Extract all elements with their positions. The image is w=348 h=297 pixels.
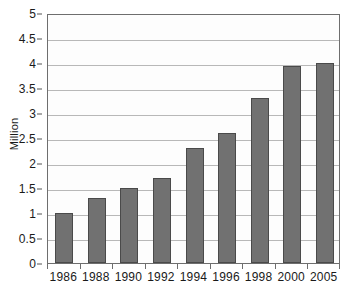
y-tick-mark [37,139,42,140]
bar [283,66,301,264]
x-tick-label: 1988 [82,270,110,284]
bar [218,133,236,263]
x-axis-tick-labels: 198619881990199219941996199820002005 [47,270,340,292]
y-tick-label: 5 [29,7,36,21]
bar-chart: Million 00.511.522.533.544.55 1986198819… [0,0,348,297]
x-tick-label: 1992 [147,270,175,284]
y-tick-mark [37,264,42,265]
x-tick-mark [177,264,178,269]
x-tick-label: 2000 [277,270,305,284]
x-tick-label: 1996 [212,270,240,284]
y-tick-label: 0 [29,257,36,271]
y-tick-mark [37,239,42,240]
y-tick-mark [37,189,42,190]
y-tick-label: 4 [29,57,36,71]
y-tick-label: 3.5 [19,82,36,96]
x-tick-label: 2005 [310,270,338,284]
x-tick-mark [307,264,308,269]
y-tick-mark [37,14,42,15]
y-tick-label: 3 [29,107,36,121]
x-tick-label: 1998 [245,270,273,284]
y-tick-mark [37,64,42,65]
bar [251,98,269,263]
bars-layer [48,15,339,263]
plot-area [47,14,340,264]
bar [153,178,171,263]
y-tick-label: 2.5 [19,132,36,146]
x-tick-mark [275,264,276,269]
x-tick-mark [80,264,81,269]
y-tick-mark [37,89,42,90]
bar [55,213,73,263]
y-tick-label: 1.5 [19,182,36,196]
x-tick-mark [47,264,48,269]
x-tick-mark [210,264,211,269]
y-axis-tick-labels: 00.511.522.533.544.55 [0,14,42,264]
y-tick-label: 4.5 [19,32,36,46]
x-tick-mark [242,264,243,269]
bar [316,63,334,263]
y-tick-mark [37,39,42,40]
x-tick-label: 1986 [50,270,78,284]
bar [88,198,106,263]
x-tick-mark [339,264,340,269]
y-tick-label: 0.5 [19,232,36,246]
y-tick-mark [37,164,42,165]
y-tick-label: 2 [29,157,36,171]
x-tick-mark [145,264,146,269]
bar [120,188,138,263]
bar [186,148,204,263]
y-tick-mark [37,214,42,215]
x-tick-mark [112,264,113,269]
x-tick-label: 1994 [180,270,208,284]
y-tick-label: 1 [29,207,36,221]
x-tick-label: 1990 [115,270,143,284]
y-tick-mark [37,114,42,115]
